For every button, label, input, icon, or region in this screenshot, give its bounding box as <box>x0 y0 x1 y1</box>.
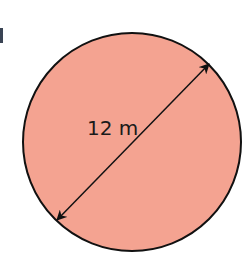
circle-diagram: 12 m <box>0 0 246 253</box>
diagram-canvas: 12 m <box>0 0 246 253</box>
diameter-label: 12 m <box>87 116 138 140</box>
